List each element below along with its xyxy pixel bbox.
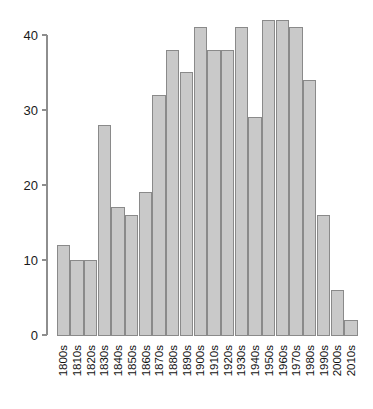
x-tick-label: 1810s xyxy=(71,345,83,377)
bar xyxy=(57,245,69,335)
bar xyxy=(112,208,124,336)
x-tick-label: 1970s xyxy=(290,345,302,377)
x-tick-label: 1980s xyxy=(304,345,316,377)
x-tick-label: 1950s xyxy=(263,345,275,377)
bar xyxy=(98,125,110,335)
x-tick-label: 1800s xyxy=(57,345,69,377)
bar xyxy=(235,28,247,336)
bar xyxy=(167,50,179,335)
x-tick-label: 1860s xyxy=(140,345,152,377)
x-tick-label: 1930s xyxy=(235,345,247,377)
bar xyxy=(126,215,138,335)
bar xyxy=(317,215,329,335)
y-axis: 010203040 xyxy=(24,28,47,343)
x-tick-label: 1940s xyxy=(249,345,261,377)
bar xyxy=(249,118,261,336)
bar xyxy=(290,28,302,336)
bars-series xyxy=(57,20,357,335)
bar xyxy=(139,193,151,336)
x-tick-label: 1890s xyxy=(181,345,193,377)
y-tick-label: 10 xyxy=(24,253,38,268)
bar xyxy=(180,73,192,336)
x-tick-label: 1850s xyxy=(126,345,138,377)
bar xyxy=(221,50,233,335)
x-axis: 1800s1810s1820s1830s1840s1850s1860s1870s… xyxy=(57,345,357,377)
x-tick-label: 2010s xyxy=(345,345,357,377)
x-tick-label: 1900s xyxy=(194,345,206,377)
chart-canvas: 010203040 1800s1810s1820s1830s1840s1850s… xyxy=(0,0,373,409)
bar xyxy=(71,260,83,335)
bar xyxy=(263,20,275,335)
bar-chart-figure: 010203040 1800s1810s1820s1830s1840s1850s… xyxy=(0,0,373,409)
x-tick-label: 1960s xyxy=(277,345,289,377)
x-tick-label: 1910s xyxy=(208,345,220,377)
x-tick-label: 2000s xyxy=(331,345,343,377)
x-tick-label: 1840s xyxy=(112,345,124,377)
y-tick-label: 20 xyxy=(24,178,38,193)
bar xyxy=(194,28,206,336)
bar xyxy=(276,20,288,335)
x-tick-label: 1990s xyxy=(318,345,330,377)
x-tick-label: 1920s xyxy=(222,345,234,377)
bar xyxy=(304,80,316,335)
y-tick-label: 40 xyxy=(24,28,38,43)
x-tick-label: 1880s xyxy=(167,345,179,377)
x-tick-label: 1830s xyxy=(98,345,110,377)
bar xyxy=(208,50,220,335)
y-tick-label: 0 xyxy=(31,328,38,343)
bar xyxy=(84,260,96,335)
bar xyxy=(331,290,343,335)
bar xyxy=(153,95,165,335)
bar xyxy=(345,320,357,335)
x-tick-label: 1820s xyxy=(85,345,97,377)
y-tick-label: 30 xyxy=(24,103,38,118)
x-tick-label: 1870s xyxy=(153,345,165,377)
